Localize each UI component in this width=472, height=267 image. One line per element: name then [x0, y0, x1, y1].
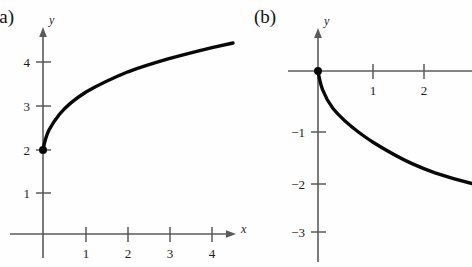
- panel-a-y-tick-label-1: 1: [24, 186, 31, 201]
- panel-a-endpoint-dot: [39, 146, 47, 154]
- panel-b: −1 −2 −3 1 2 y (b): [236, 0, 472, 267]
- panel-a-x-tick-label-3: 3: [167, 246, 174, 261]
- panel-a-x-tick-label-4: 4: [209, 246, 216, 261]
- panel-b-y-axis-label: y: [323, 14, 330, 28]
- panel-a-y-tick-label-2: 2: [24, 143, 31, 158]
- panel-b-y-axis-arrow-icon: [314, 28, 322, 38]
- panel-a-y-tick-label-4: 4: [24, 55, 31, 70]
- panel-a-plot: 4 3 2 1 1 2 3 4 y x: [0, 0, 250, 267]
- panel-a: (a) 4 3 2 1 1: [0, 0, 250, 267]
- panel-b-label: (b): [254, 6, 276, 28]
- panel-b-y-tick-label-neg2: −2: [291, 177, 305, 192]
- panel-b-y-tick-label-neg3: −3: [291, 225, 305, 240]
- panel-a-x-axis-arrow-icon: [226, 230, 236, 238]
- panel-a-x-tick-label-1: 1: [83, 246, 90, 261]
- panel-a-curve: [43, 43, 233, 150]
- panel-a-x-tick-label-2: 2: [125, 246, 132, 261]
- panel-b-plot: −1 −2 −3 1 2 y: [236, 0, 472, 267]
- figure-two-panel-graphs: (a) 4 3 2 1 1: [0, 0, 472, 267]
- panel-b-x-tick-label-1: 1: [370, 83, 377, 98]
- panel-b-curve: [318, 71, 472, 184]
- panel-a-y-axis-arrow-icon: [39, 27, 47, 37]
- panel-b-x-tick-label-2: 2: [421, 83, 428, 98]
- panel-a-y-axis-label: y: [48, 13, 55, 27]
- panel-b-endpoint-dot: [314, 67, 322, 75]
- panel-b-y-tick-label-neg1: −1: [291, 125, 305, 140]
- panel-a-y-tick-label-3: 3: [24, 99, 31, 114]
